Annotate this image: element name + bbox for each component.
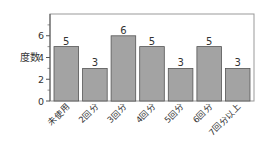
bar-value-label: 5 xyxy=(206,36,212,47)
bar xyxy=(225,68,250,101)
x-tick-label: 6回分 xyxy=(191,101,215,125)
y-tick-label: 6 xyxy=(38,30,44,41)
chart-canvas: 5365353 0246 未使用2回分3回分4回分5回分6回分7回分以上 度数 xyxy=(0,0,265,144)
bar xyxy=(83,68,108,101)
bar-value-label: 3 xyxy=(92,57,98,68)
bar xyxy=(140,47,165,101)
x-tick-label: 3回分 xyxy=(105,101,129,125)
bar-chart: 5365353 0246 未使用2回分3回分4回分5回分6回分7回分以上 度数 xyxy=(0,0,265,144)
y-axis-label: 度数 xyxy=(20,51,40,63)
bar-value-label: 5 xyxy=(63,36,69,47)
y-tick-label: 2 xyxy=(38,74,44,85)
bar-value-label: 3 xyxy=(177,57,183,68)
bar xyxy=(54,47,79,101)
x-tick-label: 4回分 xyxy=(134,101,158,125)
bar xyxy=(111,36,136,101)
x-axis: 未使用2回分3回分4回分5回分6回分7回分以上 xyxy=(46,101,244,137)
x-tick-label: 2回分 xyxy=(77,101,101,125)
bar-value-label: 6 xyxy=(120,25,126,36)
bar-value-label: 3 xyxy=(235,57,241,68)
bar-value-label: 5 xyxy=(149,36,155,47)
x-tick-label: 未使用 xyxy=(46,101,72,127)
y-tick-label: 0 xyxy=(38,96,44,107)
x-tick-label: 5回分 xyxy=(162,101,186,125)
bar xyxy=(197,47,222,101)
bar xyxy=(168,68,193,101)
